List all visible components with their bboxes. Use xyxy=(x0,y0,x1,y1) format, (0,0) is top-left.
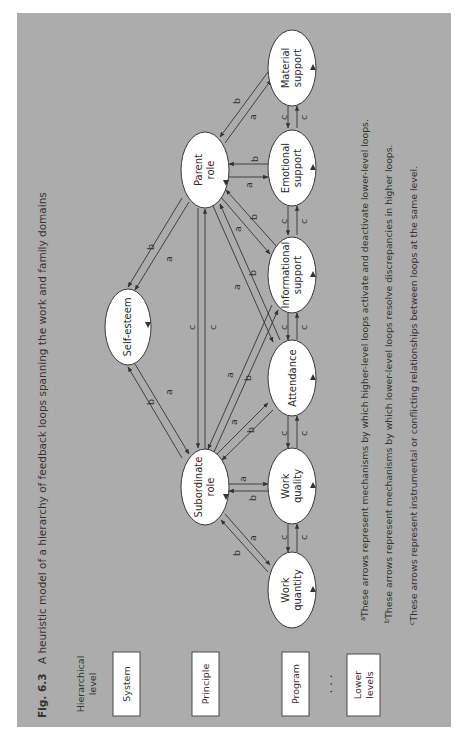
node-material-support: Material support xyxy=(268,30,316,106)
edge-label: a xyxy=(163,389,174,395)
edge-label: c xyxy=(186,325,197,330)
footnote-text: These arrows represent mechanisms by whi… xyxy=(383,144,394,619)
hierarchy-header-line2: level xyxy=(87,673,98,696)
footnote-b: bThese arrows represent mechanisms by wh… xyxy=(383,144,394,623)
edge-label: c xyxy=(207,325,218,330)
edge-label: c xyxy=(278,431,289,436)
node-label-line2: quantity xyxy=(292,569,303,611)
node-label-line1: Emotional xyxy=(280,143,291,193)
node-label-line1: Informational xyxy=(280,242,291,309)
level-label: Principle xyxy=(200,664,211,705)
footnotes: aThese arrows represent mechanisms by wh… xyxy=(359,119,419,625)
edge-label: a xyxy=(243,182,254,188)
edge-label: a xyxy=(237,476,248,482)
edge-label: b xyxy=(145,244,156,250)
edge-label: b xyxy=(242,375,253,381)
edge-label: b xyxy=(249,156,260,162)
node-informational-support: Informational support xyxy=(268,237,316,313)
level-label: Program xyxy=(290,664,301,704)
edge-label: c xyxy=(278,219,289,224)
edge-label: c xyxy=(278,325,289,330)
caption-number: Fig. 6.3 xyxy=(36,673,48,718)
figure-caption: Fig. 6.3 A heuristic model of a hierarch… xyxy=(36,192,48,718)
edge-label: b xyxy=(231,98,242,104)
node-label-line2: support xyxy=(292,49,303,87)
edge-label: a xyxy=(231,284,242,290)
edge-label: a xyxy=(247,535,258,541)
edge-label: c xyxy=(298,325,309,330)
figure-6-3: Fig. 6.3 A heuristic model of a hierarch… xyxy=(0,0,465,738)
level-system: System xyxy=(113,652,140,716)
footnote-text: These arrows represent mechanisms by whi… xyxy=(359,119,370,618)
edge-label: b xyxy=(247,495,258,501)
node-label-line2: role xyxy=(205,478,216,497)
node-label-line1: Material xyxy=(280,48,291,89)
edge-label: a xyxy=(247,114,258,120)
edge-label: c xyxy=(298,219,309,224)
edge-label: b xyxy=(247,270,258,276)
level-label-line2: levels xyxy=(364,671,375,699)
node-label: Attendance xyxy=(287,349,298,406)
node-attendance: Attendance xyxy=(268,340,316,416)
node-self-esteem: Self-esteem xyxy=(105,289,151,365)
node-work-quality: Work quality xyxy=(268,448,316,524)
node-label-line2: support xyxy=(292,256,303,294)
edge-label: c xyxy=(298,115,309,120)
node-emotional-support: Emotional support xyxy=(268,130,316,206)
level-label-line1: Lower xyxy=(352,671,363,700)
edge-label: c xyxy=(298,535,309,540)
edge-label: b xyxy=(231,550,242,556)
node-label-line2: support xyxy=(292,149,303,187)
edge-label: a xyxy=(224,372,235,378)
level-principle: Principle xyxy=(192,652,219,716)
edge-label: a xyxy=(232,226,243,232)
node-label-line1: Parent xyxy=(193,154,204,186)
node-label-line1: Work xyxy=(280,577,291,603)
node-label-line1: Work xyxy=(280,473,291,499)
node-label-line1: Subordinate xyxy=(193,457,204,518)
footnote-c: cThese arrows represent instrumental or … xyxy=(408,166,419,625)
edge-label: a xyxy=(163,256,174,262)
node-subordinate-role: Subordinate role xyxy=(181,449,229,525)
level-program: Program xyxy=(282,652,309,716)
hierarchy-header-line1: Hierarchical xyxy=(75,656,86,713)
edge-label: c xyxy=(278,535,289,540)
node-parent-role: Parent role xyxy=(181,132,229,208)
footnote-a: aThese arrows represent mechanisms by wh… xyxy=(359,119,370,621)
node-label: Self-esteem xyxy=(122,297,133,356)
node-label-line2: role xyxy=(205,161,216,180)
edge-label: b xyxy=(248,214,259,220)
edge-label: a xyxy=(228,419,239,425)
footnote-text: These arrows represent instrumental or c… xyxy=(408,166,419,623)
node-work-quantity: Work quantity xyxy=(268,552,316,628)
more-levels-ellipsis: . . . xyxy=(321,674,335,693)
edge-label: b xyxy=(245,427,256,433)
edge-label: c xyxy=(298,431,309,436)
caption-title: A heuristic model of a hierarchy of feed… xyxy=(36,192,48,664)
node-label-line2: quality xyxy=(292,469,303,503)
level-label: System xyxy=(121,666,132,701)
level-lower-levels: Lower levels xyxy=(347,654,380,716)
edge-label: b xyxy=(145,399,156,405)
edge-label: c xyxy=(278,115,289,120)
